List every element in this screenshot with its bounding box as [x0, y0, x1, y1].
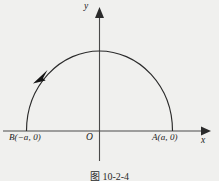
figure-container: y x O B(−a, 0) A(a, 0) 图 10-2-4	[0, 0, 219, 181]
y-axis-label: y	[84, 2, 88, 12]
y-axis-arrowhead-icon	[95, 7, 104, 18]
figure-drawing	[0, 0, 219, 181]
point-label-a: A(a, 0)	[152, 133, 178, 142]
figure-caption: 图 10-2-4	[0, 168, 219, 181]
point-label-b: B(−a, 0)	[9, 133, 41, 142]
x-axis-label: x	[201, 136, 205, 146]
y-axis	[95, 7, 104, 161]
origin-label: O	[86, 133, 93, 143]
